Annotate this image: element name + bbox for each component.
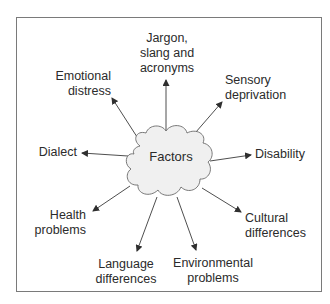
center-node-label: Factors [149, 149, 192, 164]
arrow-cultural [202, 188, 241, 212]
node-jargon-line-1: Jargon, [140, 31, 194, 46]
node-language-line-2: differences [96, 272, 157, 287]
node-emotional: Emotional distress [55, 69, 111, 99]
arrow-emotional [112, 98, 139, 140]
node-health: Health problems [35, 208, 86, 238]
node-dialect: Dialect [39, 145, 77, 160]
arrow-disability [210, 155, 251, 161]
node-cultural-line-1: Cultural [245, 211, 306, 226]
node-disability: Disability [255, 147, 305, 162]
node-environmental: Environmental problems [173, 256, 253, 286]
arrow-dialect [82, 153, 128, 156]
arrow-health [93, 186, 130, 211]
node-language: Language differences [96, 257, 157, 287]
node-jargon-line-3: acronyms [140, 61, 194, 76]
node-emotional-line-2: distress [55, 84, 111, 99]
node-sensory-line-1: Sensory [225, 73, 286, 88]
node-environmental-line-1: Environmental [173, 256, 253, 271]
node-emotional-line-1: Emotional [55, 69, 111, 84]
node-sensory: Sensory deprivation [225, 73, 286, 103]
node-jargon: Jargon, slang and acronyms [140, 31, 194, 76]
arrow-environmental [177, 197, 196, 250]
node-disability-line-1: Disability [255, 147, 305, 162]
node-language-line-1: Language [96, 257, 157, 272]
arrow-language [137, 197, 157, 251]
node-sensory-line-2: deprivation [225, 88, 286, 103]
node-cultural: Cultural differences [245, 211, 306, 241]
node-jargon-line-2: slang and [140, 46, 194, 61]
node-health-line-1: Health [35, 208, 86, 223]
node-cultural-line-2: differences [245, 226, 306, 241]
node-dialect-line-1: Dialect [39, 145, 77, 160]
node-environmental-line-2: problems [173, 271, 253, 286]
node-health-line-2: problems [35, 223, 86, 238]
